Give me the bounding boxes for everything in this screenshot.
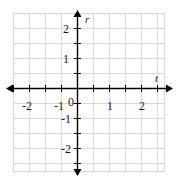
- origin-label: 0: [68, 95, 74, 109]
- y-axis-name-label: r: [85, 13, 90, 25]
- x-axis-arrow-right: [166, 85, 173, 93]
- y-tick-label-neg2: -2: [61, 142, 71, 156]
- y-tick-label-neg1: -1: [61, 112, 71, 126]
- x-tick-label-neg2: -2: [22, 99, 32, 113]
- coordinate-plane-svg: -2 -1 0 1 2 2 1 -1 -2 r t: [0, 0, 178, 183]
- x-tick-label-neg1: -1: [54, 99, 64, 113]
- y-tick-label-2: 2: [63, 22, 69, 36]
- x-axis-arrow-left: [6, 85, 13, 93]
- x-tick-label-1: 1: [107, 99, 113, 113]
- coordinate-plane-figure: -2 -1 0 1 2 2 1 -1 -2 r t: [0, 0, 178, 183]
- y-axis-arrow-bottom: [74, 169, 82, 176]
- y-tick-label-1: 1: [63, 52, 69, 66]
- x-tick-label-2: 2: [139, 99, 145, 113]
